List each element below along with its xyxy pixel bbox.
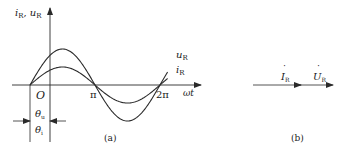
theta-i-label: θi (35, 124, 43, 136)
y-axis-label: iR, uR (15, 7, 42, 20)
tick-label-pi: π (90, 89, 97, 100)
figure-canvas: iR, uR O π 2π ωt uR iR θu θi (a) IR ˙ UR… (0, 0, 342, 156)
curve-label-u: uR (176, 49, 188, 62)
theta-u-label: θu (35, 108, 45, 120)
phasor-diagram: IR ˙ UR ˙ (b) (253, 63, 333, 143)
origin-label: O (36, 89, 45, 102)
waveform-plot: iR, uR O π 2π ωt uR iR θu θi (a) (12, 7, 201, 143)
phasor-dot-i: ˙ (282, 63, 287, 74)
phasor-dot-u: ˙ (316, 63, 321, 74)
tick-label-2pi: 2π (156, 89, 169, 100)
caption-b: (b) (291, 133, 304, 143)
x-axis-label: ωt (183, 88, 194, 98)
caption-a: (a) (104, 133, 116, 143)
curve-label-i: iR (176, 64, 185, 77)
